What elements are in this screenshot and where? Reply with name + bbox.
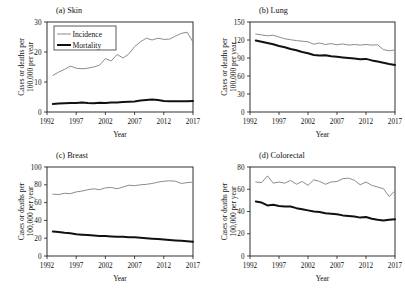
x-tick-label: 1992 [243, 118, 258, 126]
x-tick-label: 1997 [69, 262, 84, 270]
x-tick-label: 1997 [272, 118, 287, 126]
series-mortality [256, 201, 395, 220]
x-axis-title: Year [316, 274, 330, 283]
legend-label-mortality: Mortality [73, 41, 102, 50]
x-tick-label: 2007 [330, 118, 345, 126]
chart-1: (a) Skin0102030199219972002200720122017Y… [0, 0, 203, 145]
x-tick-label: 2012 [359, 118, 374, 126]
x-axis-title: Year [113, 130, 127, 139]
y-tick-label: 20 [34, 235, 42, 243]
chart-3: (c) Breast020406080100199219972002200720… [0, 145, 203, 289]
y-tick-label: 0 [38, 109, 42, 117]
y-axis-title-line: Cases or deaths per [220, 38, 229, 96]
y-tick-label: 20 [34, 49, 42, 57]
x-axis-title: Year [113, 274, 127, 283]
y-tick-label: 80 [34, 181, 42, 189]
x-tick-label: 2012 [359, 262, 374, 270]
x-tick-label: 2012 [157, 262, 172, 270]
panel-lung: (b) Lung03060901201501992199720022007201… [203, 0, 405, 145]
panel-title: (c) Breast [56, 151, 89, 160]
series-mortality [53, 232, 193, 242]
chart-2: (b) Lung03060901201501992199720022007201… [203, 0, 405, 145]
y-tick-label: 0 [241, 109, 245, 117]
x-tick-label: 2002 [98, 262, 113, 270]
panel-skin: (a) Skin0102030199219972002200720122017Y… [0, 0, 203, 145]
y-axis-title-line: Cases or deaths per [17, 38, 26, 96]
y-axis-title-line: 100,000 per year [229, 186, 238, 236]
panel-breast: (c) Breast020406080100199219972002200720… [0, 145, 203, 289]
x-tick-label: 2007 [127, 262, 142, 270]
chart-4: (d) Colorectal02040608019921997200220072… [203, 145, 405, 289]
panel-title: (b) Lung [259, 6, 288, 15]
x-tick-label: 1992 [40, 118, 55, 126]
plot-frame [47, 167, 193, 256]
x-tick-label: 2007 [330, 262, 345, 270]
y-tick-label: 0 [38, 253, 42, 261]
x-tick-label: 2007 [127, 118, 142, 126]
x-tick-label: 1997 [272, 262, 287, 270]
x-tick-label: 2012 [157, 118, 172, 126]
plot-frame [250, 167, 395, 256]
legend: IncidenceMortality [54, 26, 116, 50]
x-axis-title: Year [316, 130, 330, 139]
y-axis-title-line: 100,000 per year [26, 186, 35, 236]
series-incidence [256, 176, 395, 197]
y-tick-label: 80 [237, 164, 245, 172]
x-tick-label: 2002 [301, 262, 316, 270]
y-tick-label: 60 [237, 73, 245, 81]
legend-label-incidence: Incidence [73, 30, 103, 39]
panel-colorectal: (d) Colorectal02040608019921997200220072… [203, 145, 405, 289]
y-tick-label: 40 [237, 208, 245, 216]
y-tick-label: 40 [34, 217, 42, 225]
y-tick-label: 30 [237, 91, 245, 99]
x-tick-label: 2017 [388, 262, 403, 270]
x-tick-label: 1992 [243, 262, 258, 270]
y-axis-title-line: 100,000 per year [26, 42, 35, 92]
x-tick-label: 1997 [69, 118, 84, 126]
y-tick-label: 0 [241, 253, 245, 261]
series-incidence [256, 34, 395, 51]
x-tick-label: 1992 [40, 262, 55, 270]
x-tick-label: 2002 [98, 118, 113, 126]
y-tick-label: 90 [237, 55, 245, 63]
figure-panel-grid: (a) Skin0102030199219972002200720122017Y… [0, 0, 405, 289]
y-tick-label: 30 [34, 19, 42, 27]
y-tick-label: 100 [31, 164, 42, 172]
x-tick-label: 2017 [186, 262, 201, 270]
x-tick-label: 2017 [388, 118, 403, 126]
y-axis-title-line: Cases or deaths per [17, 182, 26, 240]
series-mortality [53, 99, 193, 104]
x-tick-label: 2017 [186, 118, 201, 126]
panel-title: (a) Skin [56, 6, 82, 15]
y-axis-title-line: Cases or deaths per [220, 182, 229, 240]
y-tick-label: 60 [237, 186, 245, 194]
y-tick-label: 60 [34, 199, 42, 207]
series-incidence [53, 181, 193, 195]
x-tick-label: 2002 [301, 118, 316, 126]
y-axis-title-line: 100,000 per year [229, 42, 238, 92]
y-tick-label: 150 [234, 19, 245, 27]
y-tick-label: 20 [237, 230, 245, 238]
y-tick-label: 10 [34, 79, 42, 87]
panel-title: (d) Colorectal [259, 151, 305, 160]
